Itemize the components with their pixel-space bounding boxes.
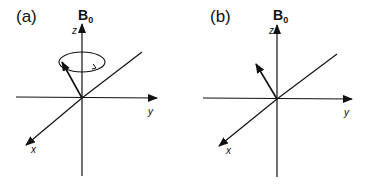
panel-b-label: (b) (210, 7, 231, 26)
panel-a: (a) B0 z y x (16, 7, 157, 176)
panel-b-magnetization-vector (256, 64, 277, 99)
panel-a-magnetization-vector (62, 62, 82, 98)
panel-b-x-label: x (225, 145, 232, 156)
panel-b-x-axis (219, 99, 277, 146)
panel-a-b0-label: B0 (78, 7, 93, 25)
panel-b-b0-label: B0 (273, 7, 288, 25)
panel-b-diagonal (277, 54, 337, 99)
panel-a-z-label: z (71, 25, 77, 36)
panel-a-x-label: x (30, 144, 37, 155)
precession-direction-icon (92, 64, 96, 69)
panel-b-z-label: z (268, 25, 274, 36)
panel-a-y-label: y (147, 106, 154, 117)
panel-a-y-axis (16, 97, 157, 98)
panel-a-x-axis (26, 98, 82, 145)
diagram-svg: (a) B0 z y x (b) B0 z y x (0, 0, 369, 185)
panel-b-y-label: y (343, 107, 350, 118)
panel-a-diagonal (82, 52, 142, 98)
panel-a-label: (a) (16, 7, 37, 26)
nmr-precession-diagram: (a) B0 z y x (b) B0 z y x (0, 0, 369, 185)
panel-b: (b) B0 z y x (203, 7, 352, 177)
